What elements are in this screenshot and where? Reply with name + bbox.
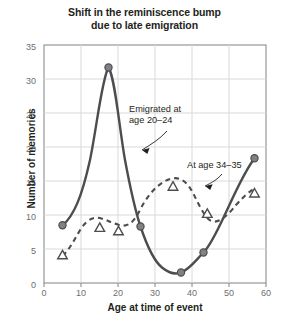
data-point-marker [137,223,144,230]
data-point-marker [105,64,112,71]
chart-figure: Shift in the reminiscence bump due to la… [0,0,289,324]
annotation-emigrated-20-24-line-1: Emigrated at [129,104,181,115]
annotation-emigrated-20-24: Emigrated at age 20–24 [129,104,181,126]
annotation-age-34-35-line-1: At age 34–35 [187,160,242,171]
data-point-marker [200,249,207,256]
y-axis-title: Number of memories [26,79,37,239]
x-axis-ticks [44,283,266,287]
x-axis-title: Age at time of event [44,302,266,313]
data-point-marker [251,155,258,162]
plot-area [0,0,289,324]
data-point-marker [177,269,184,276]
annotation-emigrated-20-24-line-2: age 20–24 [129,115,181,126]
annotation-age-34-35: At age 34–35 [187,160,242,171]
data-point-marker [59,222,66,229]
